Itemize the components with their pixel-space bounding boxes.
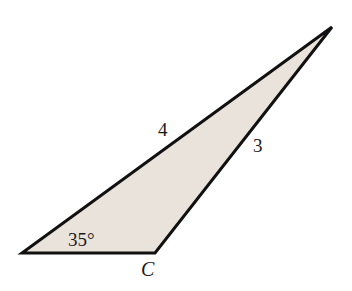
side-label-3: 3 bbox=[253, 135, 263, 156]
vertex-label-c: C bbox=[141, 258, 155, 280]
triangle-diagram: 4 3 35° C bbox=[0, 0, 352, 291]
side-label-4: 4 bbox=[158, 119, 168, 140]
angle-label-35: 35° bbox=[68, 229, 95, 250]
triangle-shape bbox=[22, 27, 332, 253]
